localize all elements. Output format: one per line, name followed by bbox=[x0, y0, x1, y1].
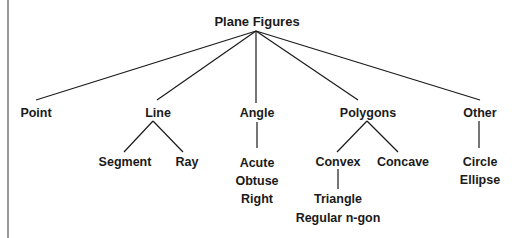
node-segment: Segment bbox=[99, 155, 152, 169]
edge-polygons-concave bbox=[367, 121, 398, 152]
edge-polygons-convex bbox=[337, 121, 367, 152]
edge-root-line bbox=[157, 31, 256, 100]
edge-root-point bbox=[36, 31, 256, 100]
node-other: Other bbox=[463, 106, 496, 120]
node-root: Plane Figures bbox=[214, 15, 299, 29]
node-acute: Acute bbox=[240, 156, 275, 170]
node-convex: Convex bbox=[315, 155, 360, 169]
node-concave: Concave bbox=[377, 155, 429, 169]
node-obtuse: Obtuse bbox=[235, 174, 278, 188]
edge-line-ray bbox=[153, 121, 183, 152]
node-circle: Circle bbox=[463, 155, 498, 169]
node-angle: Angle bbox=[240, 106, 275, 120]
node-regular-ngon: Regular n-gon bbox=[296, 211, 381, 225]
node-point: Point bbox=[20, 106, 51, 120]
node-triangle: Triangle bbox=[314, 192, 362, 206]
edge-root-other bbox=[256, 31, 480, 100]
edge-line-segment bbox=[124, 121, 153, 152]
node-right: Right bbox=[241, 192, 273, 206]
edge-root-polygons bbox=[256, 31, 358, 100]
node-ellipse: Ellipse bbox=[460, 173, 500, 187]
diagram-canvas: Plane Figures Point Line Angle Polygons … bbox=[0, 0, 512, 238]
node-line: Line bbox=[145, 106, 171, 120]
node-ray: Ray bbox=[176, 155, 199, 169]
node-polygons: Polygons bbox=[340, 106, 396, 120]
